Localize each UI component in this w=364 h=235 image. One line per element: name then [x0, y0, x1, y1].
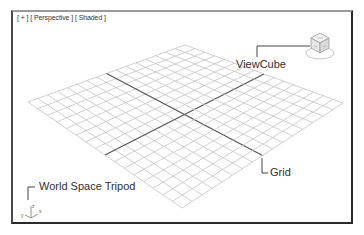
scene-canvas	[0, 0, 364, 235]
tripod-x-label: x	[39, 208, 42, 214]
tripod-callout: World Space Tripod	[39, 180, 135, 192]
viewcube-icon[interactable]	[306, 33, 334, 59]
tripod-leader	[28, 187, 35, 200]
viewcube-leader	[257, 46, 310, 57]
tripod-z-label: z	[32, 203, 35, 209]
grid-leader	[262, 158, 268, 173]
viewcube-callout: ViewCube	[236, 58, 286, 70]
tripod-y-label: y	[21, 212, 24, 218]
grid-callout: Grid	[270, 166, 291, 178]
